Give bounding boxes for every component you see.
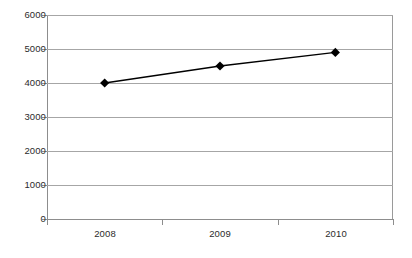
series-markers [100,48,340,88]
series-layer [0,0,412,258]
data-point-marker-2008 [100,78,109,87]
line-chart: 6000 5000 4000 3000 2000 1000 0 2008 200… [0,0,412,258]
data-point-marker-2010 [331,48,340,57]
data-point-marker-2009 [215,61,224,70]
